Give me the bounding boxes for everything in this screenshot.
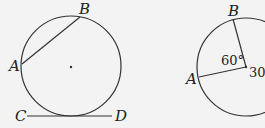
label-b-right: B [227,2,239,20]
label-d: D [114,107,127,125]
radius-label: 30 [249,65,265,80]
label-c: C [15,107,27,125]
chord-ab [22,17,80,64]
angle-label: 60° [221,53,244,68]
label-a-left: A [7,57,20,75]
left-figure: B A C D [7,0,127,125]
label-a-right: A [184,70,197,88]
label-b-left: B [78,0,90,18]
right-center-point [245,66,247,68]
geometry-diagram: B A C D B A 60° 30 [0,0,265,128]
radius-oa [199,67,246,77]
left-center-point [70,66,72,68]
right-figure: B A 60° 30 [184,2,265,116]
